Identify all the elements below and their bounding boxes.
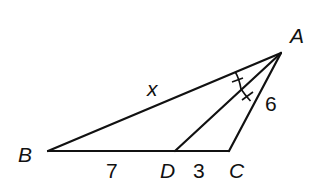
segment-ab	[48, 53, 281, 151]
side-label-ac: 6	[265, 92, 277, 115]
vertex-label-c: C	[229, 159, 245, 182]
vertex-label-d: D	[160, 159, 175, 182]
side-label-bd: 7	[106, 159, 118, 182]
tick-mark-bad	[232, 78, 243, 82]
triangle-diagram: A B C D x 6 7 3	[0, 0, 325, 188]
vertex-label-b: B	[18, 143, 32, 166]
vertex-label-a: A	[288, 24, 304, 47]
side-label-dc: 3	[193, 159, 205, 182]
side-label-ab: x	[146, 77, 159, 100]
